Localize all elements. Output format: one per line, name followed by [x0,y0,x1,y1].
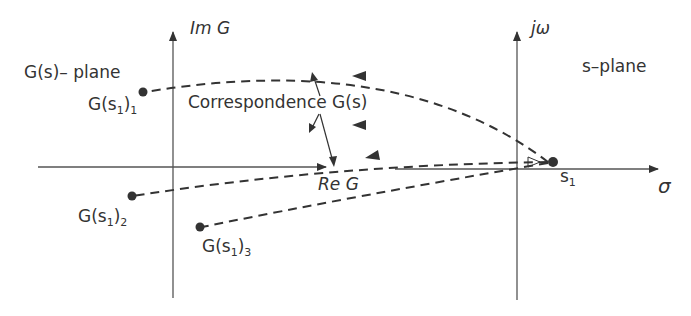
curve-arrow-1 [352,71,366,81]
pointer-head-down [329,156,337,167]
g-s1-1-label: G(s1)1 [88,96,137,116]
sigma-axis-label: σ [658,176,671,196]
re-g-label: Re G [318,176,359,193]
point-g-s1-3 [196,223,205,232]
jw-axis-label: jω [531,20,550,37]
diagram-canvas [0,0,691,316]
im-g-label: Im G [190,20,230,37]
s-plane-to-g-plane-mapping-diagram: G(s)– plane Im G Re G G(s1)1 G(s1)2 G(s1… [0,0,691,316]
g-s1-3-label: G(s1)3 [202,238,251,258]
pointer-head-up [310,72,318,82]
point-g-s1-1 [139,88,148,97]
point-s1 [548,157,558,167]
point-g-s1-2 [128,192,137,201]
s-plane-title: s–plane [582,58,647,75]
correspondence-pointer-down [320,114,333,162]
pointer-head-mid [309,123,316,133]
g-plane-title: G(s)– plane [24,64,120,81]
curve-arrow-2 [352,120,366,130]
s1-label: s1 [560,168,576,188]
g-s1-2-label: G(s1)2 [78,208,127,228]
curve-arrow-3 [365,150,380,160]
correspondence-label: Correspondence G(s) [188,94,367,111]
mapping-curve-3 [202,163,548,227]
